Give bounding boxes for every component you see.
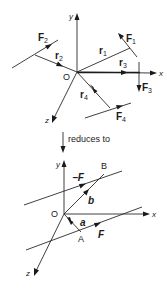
y-axis-label: y <box>55 160 61 169</box>
F-label: F <box>98 229 105 240</box>
vector-r3: r3 <box>77 57 140 75</box>
origin-label: O <box>63 72 70 82</box>
y-axis-label: y <box>68 12 74 21</box>
F2-label: F2 <box>38 32 48 44</box>
r3-label: r3 <box>119 57 127 69</box>
reduces-to-arrow: reduces to <box>61 132 111 153</box>
x-axis-label: x <box>158 69 164 78</box>
x-axis: x <box>64 210 157 219</box>
vector-b: b <box>64 174 104 214</box>
z-axis: z <box>25 214 64 278</box>
point-B-label: B <box>101 161 107 171</box>
b-label: b <box>88 195 94 206</box>
F1-label: F1 <box>126 33 136 45</box>
F4-label: F4 <box>116 111 126 123</box>
bottom-diagram: y x z O −F B b <box>24 160 157 278</box>
y-axis: y <box>55 160 67 214</box>
origin-label: O <box>51 209 58 219</box>
force-F2: F2 <box>12 32 58 68</box>
z-axis-label: z <box>25 269 30 278</box>
z-axis-label: z <box>44 116 49 125</box>
vector-r4: r4 <box>77 72 110 108</box>
force-F3: F3 <box>137 62 153 94</box>
r1-label: r1 <box>99 45 107 57</box>
a-label: a <box>80 217 86 228</box>
top-diagram: y x z O r1 F1 r2 <box>12 12 164 125</box>
reduces-to-label: reduces to <box>68 134 110 144</box>
point-A-label: A <box>78 234 84 244</box>
x-axis: x <box>77 69 164 78</box>
vector-r2: r2 <box>35 50 77 72</box>
neg-F-label: −F <box>72 172 85 183</box>
force-F1: F1 <box>118 33 137 57</box>
F3-label: F3 <box>142 82 152 94</box>
r2-label: r2 <box>55 50 63 62</box>
z-axis: z <box>44 72 77 125</box>
y-axis: y <box>68 12 80 72</box>
force-system-diagram: y x z O r1 F1 r2 <box>0 0 167 288</box>
r4-label: r4 <box>80 89 88 101</box>
force-neg-F: −F <box>24 171 122 205</box>
x-axis-label: x <box>151 210 157 219</box>
